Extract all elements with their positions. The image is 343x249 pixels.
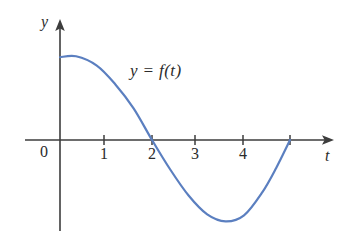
x-axis-label: t: [325, 148, 329, 164]
x-tick-label-1: 1: [94, 146, 114, 162]
x-tick-label-4: 4: [233, 146, 253, 162]
plot-canvas: [0, 0, 343, 249]
function-annotation-label: y = f(t): [130, 62, 182, 79]
origin-label: 0: [40, 144, 48, 160]
function-graph-figure: y t 0 1 2 3 4 y = f(t): [0, 0, 343, 249]
x-tick-label-3: 3: [185, 146, 205, 162]
y-axis-label: y: [41, 14, 48, 30]
x-tick-label-2: 2: [142, 146, 162, 162]
function-curve: [60, 56, 290, 222]
